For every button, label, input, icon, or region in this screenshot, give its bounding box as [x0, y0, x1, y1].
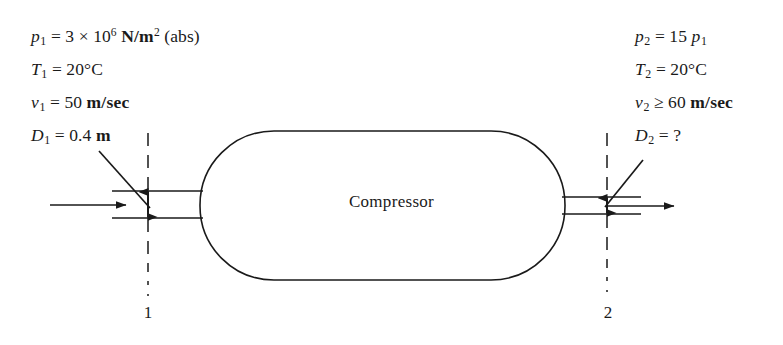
outlet-velocity-symbol: v2 — [635, 92, 649, 112]
inlet-temperature-symbol: T1 — [31, 59, 47, 79]
inlet-temperature-relation: = — [52, 59, 62, 79]
inlet-pressure-value: 3 × 10 — [65, 26, 110, 46]
outlet-temperature-relation: = — [656, 59, 666, 79]
outlet-temperature-symbol: T2 — [635, 59, 651, 79]
inlet-temperature-value: 20 — [66, 59, 84, 79]
compressor-flow-diagram: p1 = 3 × 106 N/m2 (abs) T1 = 20°C v1 = 5… — [0, 0, 783, 345]
inlet-pressure-label: p1 = 3 × 106 N/m2 (abs) — [31, 20, 200, 53]
outlet-conditions-list: p2 = 15 p1 T2 = 20°C v2 ≥ 60 m/sec D2 = … — [635, 20, 733, 152]
outlet-temperature-unit: °C — [688, 59, 707, 79]
inlet-diameter-value: 0.4 — [69, 125, 91, 145]
inlet-conditions-list: p1 = 3 × 106 N/m2 (abs) T1 = 20°C v1 = 5… — [31, 20, 200, 152]
inlet-pressure-symbol: p1 — [31, 26, 46, 46]
section-number-1: 1 — [136, 303, 160, 323]
outlet-velocity-relation: ≥ — [654, 92, 664, 112]
compressor-vessel-label: Compressor — [0, 192, 783, 212]
outlet-pressure-symbol: p2 — [635, 26, 650, 46]
outlet-pressure-relation: = — [655, 26, 665, 46]
inlet-diameter-relation: = — [55, 125, 65, 145]
inlet-diameter-unit: m — [96, 125, 111, 145]
inlet-pressure-exponent: 6 — [111, 26, 117, 38]
inlet-temperature-unit: °C — [84, 59, 103, 79]
inlet-pressure-unit: N/m — [121, 26, 154, 46]
outlet-diameter-value: ? — [673, 125, 681, 145]
outlet-velocity-value: 60 — [668, 92, 686, 112]
inlet-velocity-symbol: v1 — [31, 92, 45, 112]
inlet-velocity-label: v1 = 50 m/sec — [31, 86, 200, 119]
outlet-diameter-relation: = — [659, 125, 669, 145]
inlet-pressure-qualifier: (abs) — [164, 26, 199, 46]
inlet-pressure-relation: = — [51, 26, 61, 46]
outlet-velocity-label: v2 ≥ 60 m/sec — [635, 86, 733, 119]
outlet-pressure-value: 15 — [669, 26, 687, 46]
inlet-diameter-label: D1 = 0.4 m — [31, 119, 200, 152]
outlet-diameter-label: D2 = ? — [635, 119, 733, 152]
outlet-pressure-label: p2 = 15 p1 — [635, 20, 733, 53]
inlet-diameter-symbol: D1 — [31, 125, 50, 145]
outlet-velocity-unit: m/sec — [690, 92, 733, 112]
outlet-diameter-symbol: D2 — [635, 125, 654, 145]
inlet-velocity-relation: = — [50, 92, 60, 112]
inlet-temperature-label: T1 = 20°C — [31, 53, 200, 86]
inlet-velocity-value: 50 — [64, 92, 82, 112]
inlet-velocity-unit: m/sec — [87, 92, 130, 112]
outlet-pressure-reference: p1 — [692, 26, 707, 46]
outlet-temperature-label: T2 = 20°C — [635, 53, 733, 86]
section-number-2: 2 — [596, 303, 620, 323]
inlet-pressure-unit-exponent: 2 — [154, 26, 160, 38]
outlet-temperature-value: 20 — [670, 59, 688, 79]
